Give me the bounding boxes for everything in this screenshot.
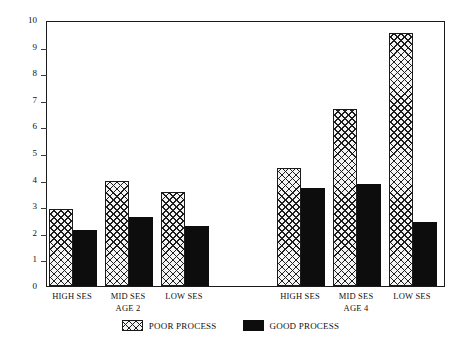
y-axis-tick-mark [41, 49, 47, 50]
y-axis-tick-mark [41, 261, 47, 262]
bar-chart-figure: Average Number of Problem Behaviors 0123… [0, 0, 461, 346]
bar [413, 222, 437, 286]
y-axis-tick-label: 8 [33, 68, 38, 79]
bar [357, 184, 381, 286]
y-axis-tick-label: 6 [33, 121, 38, 132]
y-axis-tick-mark [41, 235, 47, 236]
legend-label: GOOD PROCESS [270, 321, 340, 331]
bar [105, 181, 129, 286]
y-axis-tick-mark [41, 75, 47, 76]
chart-legend: POOR PROCESSGOOD PROCESS [0, 320, 461, 331]
x-axis-age-label: AGE 2 [88, 303, 168, 313]
y-axis-tick-label: 5 [33, 148, 38, 159]
plot-area: 012345678910 [46, 21, 445, 287]
legend-swatch-poor-process [122, 320, 143, 331]
x-axis-age-label: AGE 4 [316, 303, 396, 313]
legend-label: POOR PROCESS [149, 321, 217, 331]
bar [49, 209, 73, 286]
bar [389, 33, 413, 286]
y-axis-tick-mark [41, 208, 47, 209]
legend-swatch-good-process [243, 320, 264, 331]
y-axis-tick-label: 2 [33, 228, 38, 239]
bar [185, 226, 209, 286]
x-axis-group-label: LOW SES [144, 291, 224, 301]
y-axis-tick-mark [41, 182, 47, 183]
bar [301, 188, 325, 286]
x-axis-group-label: LOW SES [372, 291, 452, 301]
bar [73, 230, 97, 286]
legend-item: GOOD PROCESS [243, 320, 340, 331]
y-axis-tick-label: 3 [33, 201, 38, 212]
y-axis-tick-label: 4 [33, 175, 38, 186]
bar [161, 192, 185, 286]
y-axis-tick-mark [41, 102, 47, 103]
bar [333, 109, 357, 286]
y-axis-tick-label: 10 [28, 15, 37, 26]
y-axis-tick-label: 1 [33, 254, 38, 265]
y-axis-tick-label: 9 [33, 42, 38, 53]
bar [277, 168, 301, 286]
y-axis-tick-mark [41, 128, 47, 129]
plot-inner: 012345678910 [47, 22, 444, 286]
legend-item: POOR PROCESS [122, 320, 217, 331]
y-axis-tick-mark [41, 155, 47, 156]
y-axis-tick-label: 7 [33, 95, 38, 106]
bar [129, 217, 153, 286]
